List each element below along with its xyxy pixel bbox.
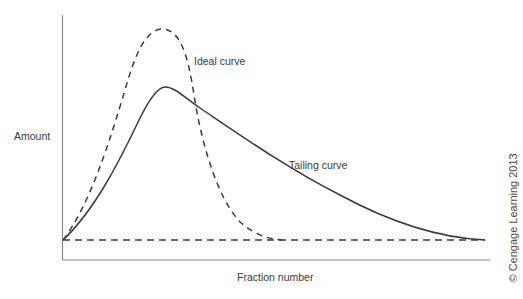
copyright-notice: © Cengage Learning 2013 — [507, 158, 519, 283]
tailing-curve — [63, 87, 485, 240]
tailing-curve-label: Tailing curve — [289, 159, 347, 171]
x-axis-label: Fraction number — [237, 271, 313, 283]
ideal-curve — [63, 29, 282, 240]
ideal-curve-label: Ideal curve — [194, 55, 245, 67]
chromatography-peak-diagram — [0, 0, 523, 299]
y-axis-label: Amount — [14, 130, 50, 142]
